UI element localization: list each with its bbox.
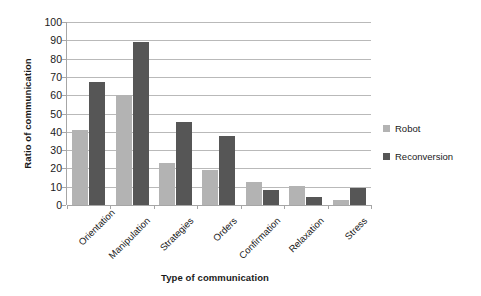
y-axis-tick-label: 50 [26, 108, 62, 119]
y-axis-tick-mark [62, 205, 66, 206]
legend-label: Reconversion [395, 151, 453, 162]
y-axis-tick-label: 90 [26, 35, 62, 46]
x-axis-category-label: Orientation [76, 215, 108, 247]
legend-swatch-icon [383, 125, 390, 132]
y-axis-tick-label: 30 [26, 145, 62, 156]
x-axis-tick-mark [371, 205, 372, 209]
legend-label: Robot [395, 123, 420, 134]
y-axis-tick-label: 80 [26, 53, 62, 64]
x-axis-title: Type of communication [60, 272, 370, 283]
y-axis-tick-label: 70 [26, 72, 62, 83]
legend-item[interactable]: Reconversion [383, 151, 481, 162]
legend-item[interactable]: Robot [383, 123, 481, 134]
y-axis-tick-label: 40 [26, 127, 62, 138]
y-axis-tick-label: 20 [26, 163, 62, 174]
y-axis-tick-label: 10 [26, 181, 62, 192]
y-axis-tick-label: 60 [26, 90, 62, 101]
y-axis-tick-label: 100 [26, 17, 62, 28]
legend-swatch-icon [383, 153, 390, 160]
y-axis-tick-label: 0 [26, 200, 62, 211]
bar-chart: Ratio of communication 01020304050607080… [0, 0, 481, 296]
x-axis-category-labels: OrientationManipulationStrategiesOrdersC… [66, 209, 370, 267]
x-axis-tick-marks [67, 22, 371, 205]
plot-area [66, 22, 371, 205]
chart-legend: RobotReconversion [383, 123, 481, 179]
